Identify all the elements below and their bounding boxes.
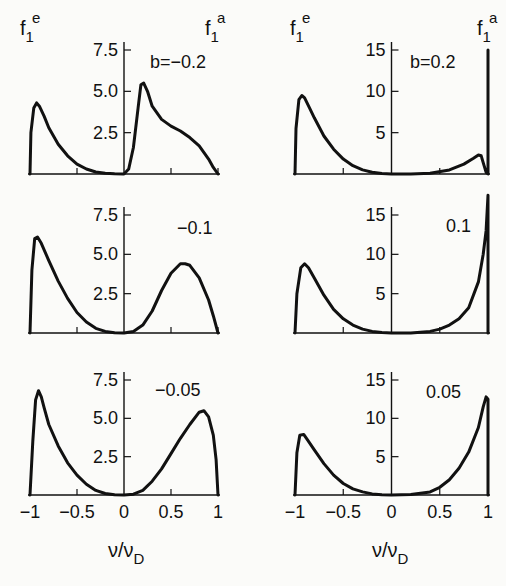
b-value-annotation: b=−0.2 [150, 53, 206, 71]
y-tick-label: 5 [375, 285, 385, 303]
b-value-annotation: −0.1 [177, 219, 213, 237]
y-tick-label: 7.5 [93, 41, 118, 59]
y-tick-label: 5.0 [93, 82, 118, 100]
right-xlabel: ν/νD [372, 540, 408, 564]
y-tick-label: 15 [365, 371, 385, 389]
b-value-annotation: 0.1 [446, 217, 471, 235]
y-tick-label: 7.5 [93, 206, 118, 224]
left-panel-right-ylabel: f1a [205, 18, 219, 42]
x-tick-label: −0.5 [59, 503, 95, 521]
y-tick-label: 10 [365, 245, 385, 263]
y-tick-label: 2.5 [93, 448, 118, 466]
x-tick-label: −1 [20, 503, 41, 521]
y-tick-label: 10 [365, 82, 385, 100]
left-ylabel: f1e [20, 18, 34, 42]
right-panel-left-ylabel: f1e [290, 18, 304, 42]
y-tick-label: 7.5 [93, 371, 118, 389]
y-tick-label: 5 [375, 448, 385, 466]
y-tick-label: 2.5 [93, 124, 118, 142]
x-tick-label: −0.5 [325, 503, 361, 521]
x-tick-label: 0 [386, 503, 396, 521]
x-tick-label: 0 [119, 503, 129, 521]
right-ylabel: f1a [477, 18, 491, 42]
y-tick-label: 5.0 [93, 409, 118, 427]
y-tick-label: 2.5 [93, 285, 118, 303]
y-tick-label: 15 [365, 41, 385, 59]
x-tick-label: 0.5 [158, 503, 183, 521]
y-tick-label: 5.0 [93, 245, 118, 263]
b-value-annotation: 0.05 [426, 383, 461, 401]
b-value-annotation: b=0.2 [410, 53, 456, 71]
figure-canvas [0, 0, 506, 586]
x-tick-label: 1 [213, 503, 223, 521]
left-xlabel: ν/νD [108, 540, 144, 564]
x-tick-label: −1 [285, 503, 306, 521]
y-tick-label: 10 [365, 409, 385, 427]
y-tick-label: 15 [365, 206, 385, 224]
b-value-annotation: −0.05 [155, 381, 201, 399]
x-tick-label: 1 [483, 503, 493, 521]
y-tick-label: 5 [375, 124, 385, 142]
x-tick-label: 0.5 [427, 503, 452, 521]
panel-top-right [293, 42, 490, 174]
